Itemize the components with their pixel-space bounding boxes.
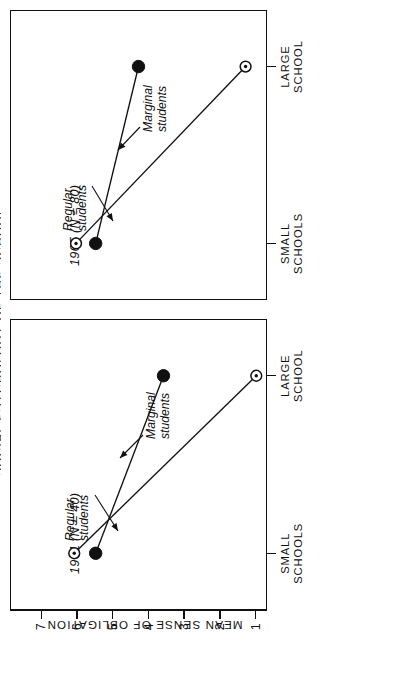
category-label-p1961-1: LARGESCHOOL (279, 349, 305, 402)
category-label-line2: SCHOOLS (292, 213, 304, 274)
value-axis-title: MEAN SENSE OF OBLIGATION (25, 619, 265, 632)
series-note-line1: Regular (63, 498, 77, 541)
series-note-line1: Marginal (144, 392, 158, 439)
category-label-p1965-1: LARGESCHOOL (279, 40, 305, 93)
series-note-line2: students (155, 86, 169, 132)
category-label-p1961-0: SMALLSCHOOLS (279, 523, 305, 584)
series-note-p1965-marginal: Marginalstudents (142, 85, 169, 132)
chart-figure: SOCIAL PSYCHOLOGY OF THE SCHOOL 7654321 … (0, 0, 406, 683)
rotated-figure-stage: SOCIAL PSYCHOLOGY OF THE SCHOOL 7654321 … (0, 0, 406, 683)
category-label-line2: SCHOOLS (292, 523, 304, 584)
category-tick-p1961-1 (267, 375, 276, 376)
panel-1965 (10, 10, 267, 300)
category-label-p1965-0: SMALLSCHOOLS (279, 213, 305, 274)
series-note-p1961-regular: Regularstudents (64, 495, 91, 541)
series-note-line2: students (158, 393, 172, 439)
category-tick-p1965-0 (267, 243, 276, 244)
series-note-line2: students (77, 495, 91, 541)
series-note-line1: Marginal (141, 85, 155, 132)
category-tick-p1965-1 (267, 66, 276, 67)
category-label-line2: SCHOOL (292, 40, 304, 93)
category-tick-p1961-0 (267, 553, 276, 554)
series-note-line1: Regular (61, 188, 75, 231)
category-label-line1: SMALL (279, 223, 291, 264)
series-note-line2: students (75, 185, 89, 231)
value-axis-spine (10, 610, 267, 611)
panel-1961 (10, 319, 267, 610)
category-label-line1: SMALL (279, 533, 291, 574)
series-note-p1961-marginal: Marginalstudents (145, 392, 172, 439)
series-note-p1965-regular: Regularstudents (62, 185, 89, 231)
category-label-line2: SCHOOL (292, 349, 304, 402)
clipped-running-title: SOCIAL PSYCHOLOGY OF THE SCHOOL (0, 0, 1, 683)
category-label-line1: LARGE (279, 355, 291, 397)
category-label-line1: LARGE (279, 45, 291, 87)
